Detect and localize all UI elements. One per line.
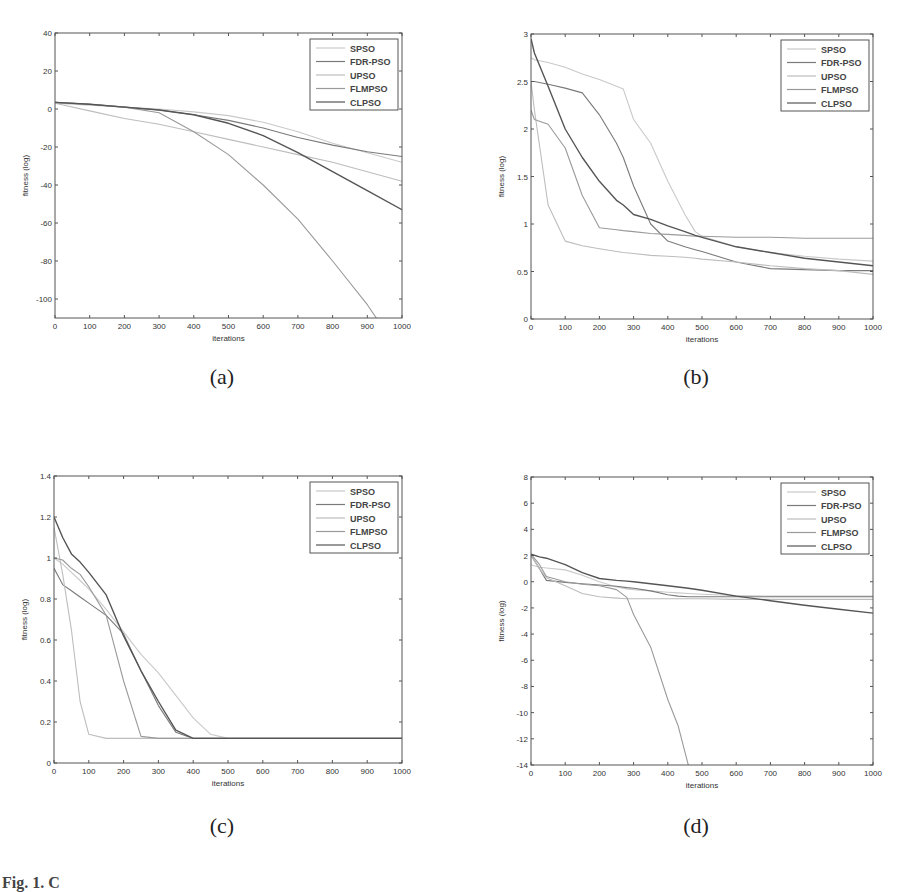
legend-label: FDR-PSO — [821, 501, 862, 511]
caption-d: (d) — [666, 813, 726, 839]
y-tick-label: 8 — [524, 473, 529, 482]
x-tick-label: 1000 — [864, 769, 882, 778]
figure-label: Fig. 1. C — [2, 874, 60, 892]
legend: SPSOFDR-PSOUPSOFLMPSOCLPSO — [781, 483, 869, 554]
y-tick-label: -6 — [521, 656, 529, 665]
series-line-upso — [531, 556, 873, 600]
y-tick-label: 0 — [524, 578, 529, 587]
series-group — [531, 554, 873, 892]
x-tick-label: 400 — [661, 769, 675, 778]
x-tick-label: 700 — [764, 769, 778, 778]
y-tick-label: 4 — [524, 525, 529, 534]
y-tick-label: -12 — [516, 735, 528, 744]
x-tick-label: 800 — [798, 769, 812, 778]
y-tick-label: -2 — [521, 604, 529, 613]
x-tick-label: 500 — [695, 769, 709, 778]
x-tick-label: 600 — [730, 769, 744, 778]
x-axis-label: iterations — [686, 781, 718, 790]
x-tick-label: 0 — [529, 769, 534, 778]
x-tick-label: 300 — [627, 769, 641, 778]
legend-label: CLPSO — [821, 542, 852, 552]
legend-label: FLMPSO — [821, 528, 859, 538]
x-tick-label: 900 — [832, 769, 846, 778]
legend-label: UPSO — [821, 515, 847, 525]
y-tick-label: -14 — [516, 761, 528, 770]
x-tick-label: 200 — [593, 769, 607, 778]
y-tick-label: -10 — [516, 709, 528, 718]
series-line-spso — [531, 565, 873, 596]
y-tick-label: 2 — [524, 552, 529, 561]
y-tick-label: -8 — [521, 682, 529, 691]
y-tick-label: -4 — [521, 630, 529, 639]
series-line-flmpso — [531, 554, 873, 892]
y-axis-label: fitness (log) — [497, 600, 506, 642]
legend-label: SPSO — [821, 488, 846, 498]
x-tick-label: 100 — [559, 769, 573, 778]
y-tick-label: 6 — [524, 499, 529, 508]
